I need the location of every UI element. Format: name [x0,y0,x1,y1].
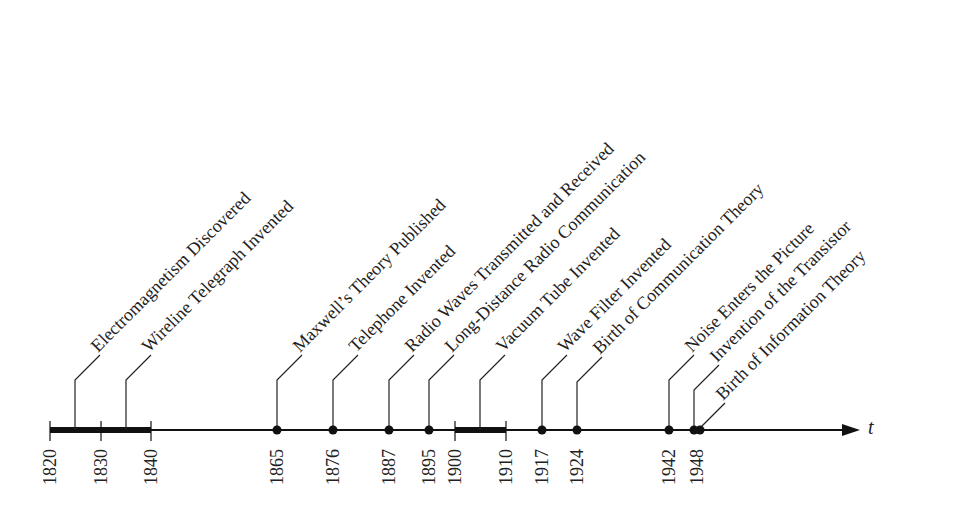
connector-vacuum-tube [480,355,505,430]
axis-arrow-icon [842,424,860,436]
year-label-1942: 1942 [660,449,678,485]
event-connectors [75,355,725,430]
connector-transistor [694,365,719,430]
connector-radio-waves [389,355,414,430]
year-label-1865: 1865 [268,449,286,485]
connector-telephone [333,355,358,430]
timeline-diagram: Electromagnetism Discovered Wireline Tel… [0,0,975,506]
year-label-1830: 1830 [92,449,110,485]
connector-telegraph [126,355,151,430]
connector-information-theory [700,403,725,428]
connector-noise [669,355,694,430]
year-label-1895: 1895 [420,449,438,485]
connector-electromagnetism [75,355,100,430]
year-label-1924: 1924 [568,449,586,485]
year-label-1948: 1948 [688,449,706,485]
connector-maxwell [277,355,302,430]
connector-wave-filter [542,355,567,430]
connector-communication-theory [577,357,602,430]
year-label-1917: 1917 [533,449,551,485]
axis-variable-t: t [868,416,874,439]
connector-long-distance [429,355,454,430]
year-label-1887: 1887 [380,449,398,485]
year-label-1876: 1876 [324,449,342,485]
year-label-1840: 1840 [142,449,160,485]
year-label-1910: 1910 [497,449,515,485]
year-label-1820: 1820 [41,449,59,485]
year-label-1900: 1900 [446,449,464,485]
